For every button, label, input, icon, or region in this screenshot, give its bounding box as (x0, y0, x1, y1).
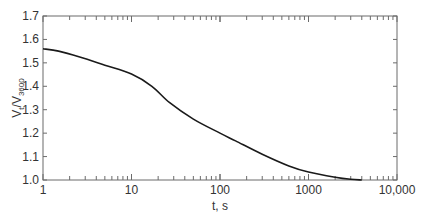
y-label-main: V (10, 110, 24, 118)
y-tick-label: 1.0 (22, 173, 39, 187)
chart-container: 1.01.11.21.31.41.51.61.7110100100010,000… (0, 0, 426, 218)
y-label-mid: /V (10, 96, 24, 107)
y-tick-label: 1.7 (22, 9, 39, 23)
y-tick-label: 1.1 (22, 150, 39, 164)
y-tick-label: 1.6 (22, 32, 39, 46)
x-tick-label: 1 (40, 183, 47, 197)
y-axis-label: Vt/V3600 (10, 78, 26, 118)
x-tick-label: 10 (125, 183, 139, 197)
x-tick-label: 1000 (295, 183, 322, 197)
y-label-sub2: 3600 (17, 78, 26, 96)
tick-labels: 1.01.11.21.31.41.51.61.7110100100010,000 (22, 9, 415, 197)
ticks (43, 16, 397, 180)
plot-frame (43, 16, 397, 180)
y-tick-label: 1.2 (22, 126, 39, 140)
data-series-line (43, 49, 362, 180)
x-axis-label: t, s (212, 199, 228, 213)
x-tick-label: 100 (210, 183, 230, 197)
axes (43, 16, 397, 180)
line-chart: 1.01.11.21.31.41.51.61.7110100100010,000… (0, 0, 426, 218)
x-tick-label: 10,000 (379, 183, 416, 197)
y-tick-label: 1.5 (22, 56, 39, 70)
